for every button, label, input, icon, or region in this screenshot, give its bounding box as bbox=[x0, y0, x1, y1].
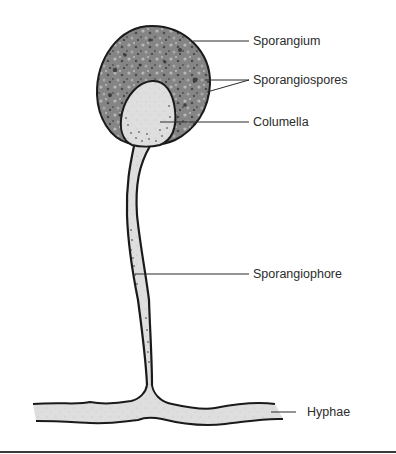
sporangiophore bbox=[127, 146, 152, 385]
hyphae bbox=[33, 385, 283, 425]
label-sporangiospores: Sporangiospores bbox=[253, 73, 348, 87]
label-hyphae: Hyphae bbox=[307, 405, 350, 419]
label-sporangium: Sporangium bbox=[253, 34, 320, 48]
sporangium-diagram bbox=[0, 0, 396, 454]
label-columella: Columella bbox=[253, 115, 309, 129]
bottom-rule-divider bbox=[0, 451, 396, 453]
label-sporangiophore: Sporangiophore bbox=[253, 267, 342, 281]
leader-sporangiospores-b bbox=[207, 80, 249, 92]
